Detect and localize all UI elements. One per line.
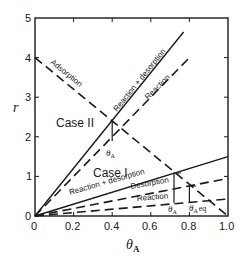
theta-a-eq-label: θAeq [189, 203, 206, 214]
y-tick-4: 4 [25, 52, 31, 64]
adsorption-line [35, 58, 228, 216]
case1-label: Case I [93, 166, 128, 180]
y-axis-label: r [13, 100, 19, 115]
y-tick-5: 5 [25, 12, 31, 24]
y-tick-3: 3 [25, 91, 31, 103]
x-tick-0-8: 0.8 [181, 220, 196, 232]
x-tick-1-0: 1.0 [219, 220, 234, 232]
x-tick-0-4: 0.4 [104, 220, 119, 232]
case2-label: Case II [56, 116, 94, 130]
x-axis-label: θA [126, 237, 140, 254]
x-tick-0-6: 0.6 [142, 220, 157, 232]
x-tick-labels: 0 0.2 0.4 0.6 0.8 1.0 [31, 220, 234, 232]
label-case1-reaction: Reaction [136, 191, 168, 203]
y-tick-labels: 0 1 2 3 4 5 [25, 12, 32, 222]
y-tick-1: 1 [26, 170, 32, 182]
x-tick-0-2: 0.2 [65, 220, 80, 232]
y-tick-2: 2 [25, 131, 31, 143]
chart-canvas: 0 1 2 3 4 5 0 0.2 0.4 0.6 0.8 1.0 r θA A… [0, 0, 246, 265]
theta-a-label-case2: θA [106, 148, 115, 159]
theta-a-label-case1: θA [168, 204, 177, 215]
x-tick-0: 0 [31, 220, 37, 232]
label-adsorption: Adsorption [49, 58, 84, 89]
